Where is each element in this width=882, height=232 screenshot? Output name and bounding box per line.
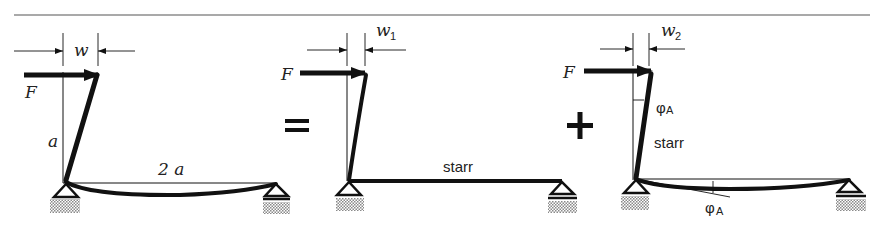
panel-case2: w 2 starr φ A φ A F	[562, 20, 866, 217]
deflection-label-w: w	[74, 40, 89, 60]
roller-support-right	[263, 184, 290, 214]
pin-support-left	[621, 180, 649, 210]
force-label: F	[280, 64, 294, 84]
panel-total: w F a 2 a	[14, 33, 290, 214]
deflection-label-w2: w	[661, 20, 676, 40]
pin-support-left	[336, 182, 364, 211]
equals-sign	[285, 119, 309, 132]
force-label: F	[562, 62, 576, 82]
rotation-label-top: φ	[656, 99, 666, 116]
deformed-beam	[66, 182, 276, 195]
deformed-column	[349, 75, 366, 180]
deformed-column	[66, 75, 97, 180]
deflection-label-w1-sub: 1	[390, 30, 396, 42]
rotation-label-bottom: φ	[705, 199, 715, 216]
rigid-rotated-column	[636, 74, 651, 178]
roller-support-right	[836, 180, 866, 211]
beam-label-starr: starr	[443, 158, 473, 175]
deflection-label-w1: w	[376, 20, 391, 40]
plus-sign	[567, 112, 593, 139]
deformed-beam	[638, 180, 849, 189]
roller-support-right	[548, 182, 577, 213]
column-label-starr: starr	[654, 134, 684, 151]
force-label: F	[24, 82, 38, 102]
rotation-label-bottom-sub: A	[716, 205, 724, 217]
deflection-label-w2-sub: 2	[675, 30, 681, 42]
frame-superposition-diagram: w F a 2 a	[0, 0, 882, 232]
panel-case1: w 1 starr F	[280, 20, 577, 213]
height-label: a	[48, 131, 58, 151]
span-label: 2 a	[157, 159, 184, 179]
rotation-label-top-sub: A	[666, 104, 674, 116]
pin-support-left	[50, 184, 80, 213]
